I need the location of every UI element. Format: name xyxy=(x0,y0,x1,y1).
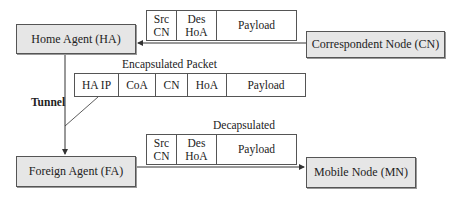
packet-field-src: Src CN xyxy=(147,11,177,40)
packet-field-coa: CoA xyxy=(119,74,156,96)
mobile-node: Mobile Node (MN) xyxy=(306,157,416,188)
packet-field-des: Des HoA xyxy=(177,135,217,164)
tunnel-label: Tunnel xyxy=(31,96,65,108)
home-agent-node: Home Agent (HA) xyxy=(16,24,136,54)
correspondent-node-label: Correspondent Node (CN) xyxy=(312,37,439,52)
packet-field-payload: Payload xyxy=(217,11,296,40)
original-packet: Src CN Des HoA Payload xyxy=(146,10,297,41)
mobile-node-label: Mobile Node (MN) xyxy=(314,165,408,180)
decapsulated-packet-title: Decapsulated xyxy=(213,119,275,131)
decapsulated-packet: Src CN Des HoA Payload xyxy=(146,134,297,165)
foreign-agent-node: Foreign Agent (FA) xyxy=(16,156,136,187)
correspondent-node: Correspondent Node (CN) xyxy=(306,31,445,58)
foreign-agent-label: Foreign Agent (FA) xyxy=(29,164,123,179)
packet-field-payload: Payload xyxy=(227,74,305,96)
packet-field-cn: CN xyxy=(156,74,188,96)
encapsulated-packet: HA IP CoA CN HoA Payload xyxy=(74,73,306,97)
packet-field-payload: Payload xyxy=(217,135,296,164)
packet-field-des: Des HoA xyxy=(177,11,217,40)
packet-field-src: Src CN xyxy=(147,135,177,164)
encapsulated-packet-title: Encapsulated Packet xyxy=(122,58,217,70)
home-agent-label: Home Agent (HA) xyxy=(31,32,120,47)
packet-field-ha-ip: HA IP xyxy=(75,74,119,96)
packet-field-hoa: HoA xyxy=(188,74,227,96)
